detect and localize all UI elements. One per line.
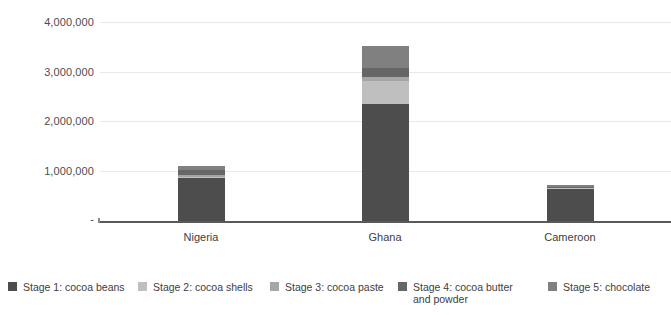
y-axis-zero-tick bbox=[98, 218, 100, 223]
y-axis-label-4000000: 4,000,000 bbox=[8, 16, 94, 28]
y-axis-label-3000000: 3,000,000 bbox=[8, 66, 94, 78]
legend-item-stage-5[interactable]: Stage 5: chocolate bbox=[548, 281, 650, 293]
category-label-ghana: Ghana bbox=[325, 231, 445, 243]
category-label-cameroon: Cameroon bbox=[510, 231, 630, 243]
legend-label-stage-3: Stage 3: cocoa paste bbox=[285, 281, 384, 293]
bar-segment-nigeria-stage-1[interactable] bbox=[178, 178, 225, 221]
y-axis-label-1000000: 1,000,000 bbox=[8, 165, 94, 177]
legend-swatch-stage-5 bbox=[548, 282, 557, 291]
legend-item-stage-3[interactable]: Stage 3: cocoa paste bbox=[270, 281, 384, 293]
bar-cameroon[interactable] bbox=[547, 185, 594, 221]
legend-swatch-stage-2 bbox=[138, 282, 147, 291]
y-axis-labels: 4,000,000 3,000,000 2,000,000 1,000,000 … bbox=[0, 0, 94, 240]
bar-segment-ghana-stage-5[interactable] bbox=[362, 46, 409, 68]
category-label-nigeria: Nigeria bbox=[141, 231, 261, 243]
bar-ghana[interactable] bbox=[362, 46, 409, 221]
legend-label-stage-1: Stage 1: cocoa beans bbox=[23, 281, 125, 293]
legend-swatch-stage-1 bbox=[8, 282, 17, 291]
legend-label-stage-5: Stage 5: chocolate bbox=[563, 281, 650, 293]
bar-segment-ghana-stage-1[interactable] bbox=[362, 104, 409, 221]
legend-item-stage-1[interactable]: Stage 1: cocoa beans bbox=[8, 281, 125, 293]
chart-legend: Stage 1: cocoa beans Stage 2: cocoa shel… bbox=[8, 281, 671, 311]
y-axis-label-2000000: 2,000,000 bbox=[8, 115, 94, 127]
legend-item-stage-2[interactable]: Stage 2: cocoa shells bbox=[138, 281, 253, 293]
stacked-bar-chart: 4,000,000 3,000,000 2,000,000 1,000,000 … bbox=[0, 0, 671, 315]
bar-segment-ghana-stage-2[interactable] bbox=[362, 81, 409, 104]
legend-label-stage-2: Stage 2: cocoa shells bbox=[153, 281, 253, 293]
bars-layer bbox=[100, 22, 671, 221]
legend-swatch-stage-3 bbox=[270, 282, 279, 291]
bar-nigeria[interactable] bbox=[178, 166, 225, 221]
bar-segment-ghana-stage-4[interactable] bbox=[362, 68, 409, 77]
bar-segment-cameroon-stage-1[interactable] bbox=[547, 189, 594, 221]
legend-label-stage-4: Stage 4: cocoa butter and powder bbox=[413, 281, 513, 305]
x-axis-line bbox=[100, 221, 671, 223]
y-axis-label-zero: - bbox=[8, 213, 94, 225]
legend-item-stage-4[interactable]: Stage 4: cocoa butter and powder bbox=[398, 281, 513, 305]
legend-swatch-stage-4 bbox=[398, 282, 407, 291]
